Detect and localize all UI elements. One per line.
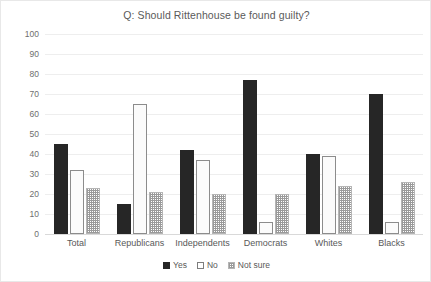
x-axis-tick-independents: Independents: [175, 239, 230, 248]
bar[interactable]: [259, 222, 273, 234]
bar[interactable]: [212, 194, 226, 234]
legend-item[interactable]: Not sure: [228, 260, 270, 270]
bar-group-bars: [45, 34, 108, 234]
y-axis-tick-0: 0: [1, 230, 39, 239]
bar[interactable]: [54, 144, 68, 234]
chart-title: Q: Should Rittenhouse be found guilty?: [1, 9, 431, 21]
bar-group: [234, 34, 297, 234]
y-axis-tick-70: 70: [1, 90, 39, 99]
bar-group-bars: [297, 34, 360, 234]
y-axis-tick-80: 80: [1, 70, 39, 79]
y-axis-tick-60: 60: [1, 110, 39, 119]
legend-swatch-icon: [197, 262, 204, 269]
legend-item[interactable]: No: [197, 260, 218, 270]
legend-swatch-icon: [228, 262, 235, 269]
legend-item[interactable]: Yes: [163, 260, 187, 270]
bar[interactable]: [180, 150, 194, 234]
y-axis-tick-50: 50: [1, 130, 39, 139]
y-axis: 0102030405060708090100: [1, 34, 39, 234]
x-axis-tick-democrats: Democrats: [244, 239, 288, 248]
legend-label: Not sure: [238, 260, 270, 270]
chart-legend: YesNoNot sure: [1, 260, 431, 270]
y-axis-tick-30: 30: [1, 170, 39, 179]
plot-area: [45, 34, 423, 234]
bar[interactable]: [149, 192, 163, 234]
bar[interactable]: [243, 80, 257, 234]
bar[interactable]: [275, 194, 289, 234]
bar-group-bars: [360, 34, 423, 234]
chart-card: Q: Should Rittenhouse be found guilty? 0…: [0, 0, 431, 282]
y-axis-tick-100: 100: [1, 30, 39, 39]
bar-group: [297, 34, 360, 234]
x-axis-tick-whites: Whites: [315, 239, 343, 248]
y-axis-tick-10: 10: [1, 210, 39, 219]
bar[interactable]: [86, 188, 100, 234]
bar[interactable]: [70, 170, 84, 234]
gridline-0: [45, 234, 423, 235]
legend-label: Yes: [173, 260, 187, 270]
x-axis-tick-blacks: Blacks: [378, 239, 405, 248]
bar-group-bars: [171, 34, 234, 234]
x-axis-tick-republicans: Republicans: [115, 239, 165, 248]
bar[interactable]: [117, 204, 131, 234]
y-axis-tick-40: 40: [1, 150, 39, 159]
legend-label: No: [207, 260, 218, 270]
bar[interactable]: [385, 222, 399, 234]
bar[interactable]: [306, 154, 320, 234]
bar-group: [45, 34, 108, 234]
bar-group: [108, 34, 171, 234]
bar[interactable]: [196, 160, 210, 234]
bar[interactable]: [338, 186, 352, 234]
bar[interactable]: [133, 104, 147, 234]
bar[interactable]: [369, 94, 383, 234]
bar[interactable]: [322, 156, 336, 234]
y-axis-tick-90: 90: [1, 50, 39, 59]
bar-group: [171, 34, 234, 234]
bar[interactable]: [401, 182, 415, 234]
bar-group-bars: [234, 34, 297, 234]
legend-swatch-icon: [163, 262, 170, 269]
x-axis: TotalRepublicansIndependentsDemocratsWhi…: [45, 239, 423, 255]
bar-group-bars: [108, 34, 171, 234]
bar-group: [360, 34, 423, 234]
y-axis-tick-20: 20: [1, 190, 39, 199]
x-axis-tick-total: Total: [67, 239, 86, 248]
